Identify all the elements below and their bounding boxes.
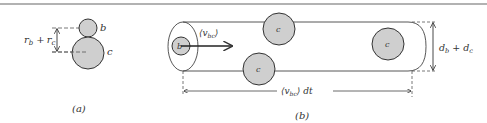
- caption-b: (b): [295, 110, 309, 121]
- radius-sum-label: rb+rc: [24, 34, 55, 47]
- caption-a: (a): [72, 103, 86, 114]
- label-c-2: c: [256, 65, 261, 74]
- label-c: c: [107, 46, 113, 57]
- velocity-label: ⟨vbc⟩: [199, 28, 218, 39]
- label-c-3: c: [385, 40, 390, 49]
- panel-b: c c c b ⟨vbc⟩ ⟨vbc⟩ dt db+dc (b): [168, 13, 473, 121]
- label-c-1: c: [276, 25, 281, 34]
- particle-c: [72, 37, 104, 69]
- cylinder-end-cap: [408, 22, 426, 71]
- particle-b: [79, 19, 97, 37]
- panel-a: b c rb+rc (a): [24, 19, 113, 114]
- length-label: ⟨vbc⟩ dt: [281, 86, 313, 97]
- label-b: b: [100, 22, 106, 33]
- diameter-label: db+dc: [439, 42, 473, 55]
- collision-diagram: b c rb+rc (a) c c c b ⟨vbc⟩ ⟨vbc⟩ dt db+…: [0, 0, 487, 123]
